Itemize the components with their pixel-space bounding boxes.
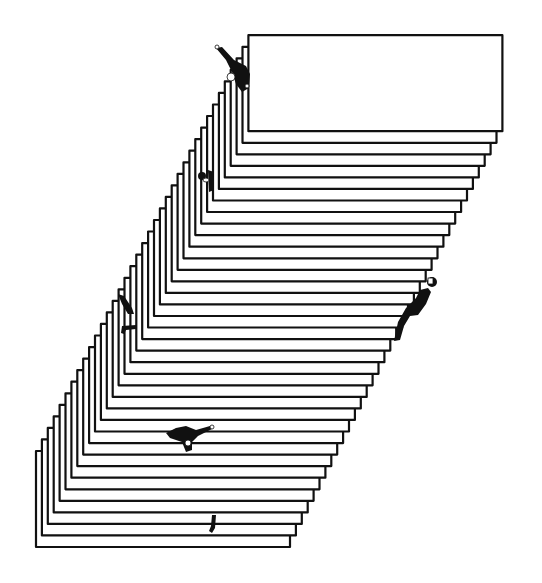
sheet xyxy=(248,35,502,131)
staircase-illustration xyxy=(0,0,542,583)
stacked-sheets xyxy=(36,35,502,547)
